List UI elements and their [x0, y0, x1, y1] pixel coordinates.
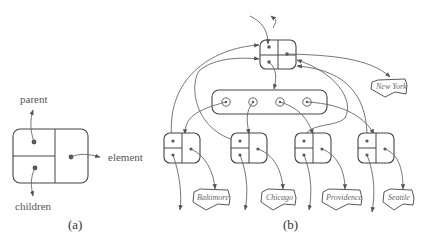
children-label: children	[15, 200, 52, 212]
svg-text:Baltimore: Baltimore	[197, 193, 229, 202]
element-providence: Providence	[322, 189, 363, 210]
element-baltimore: Baltimore	[193, 189, 230, 210]
child-node-1	[164, 133, 200, 163]
svg-text:Seattle: Seattle	[388, 193, 410, 202]
root-element-arrow-icon	[287, 54, 390, 77]
svg-text:New York: New York	[375, 82, 407, 91]
parent-label: parent	[20, 93, 47, 105]
caption-b: (b)	[283, 217, 298, 232]
child-node-4	[358, 133, 394, 163]
tree-node-diagram: parent children element (a) New York	[0, 0, 429, 244]
element-chicago: Chicago	[261, 189, 296, 210]
child-node-3	[295, 133, 331, 163]
element-new-york: New York	[371, 79, 407, 97]
element-label: element	[108, 151, 143, 163]
panel-b-tree-example: New York	[164, 16, 414, 232]
svg-text:Chicago: Chicago	[266, 193, 293, 202]
svg-text:Providence: Providence	[325, 193, 363, 202]
panel-a-node-structure: parent children element (a)	[13, 93, 143, 232]
caption-a: (a)	[68, 217, 82, 232]
child-node-2	[231, 133, 267, 163]
element-seattle: Seattle	[383, 189, 414, 210]
